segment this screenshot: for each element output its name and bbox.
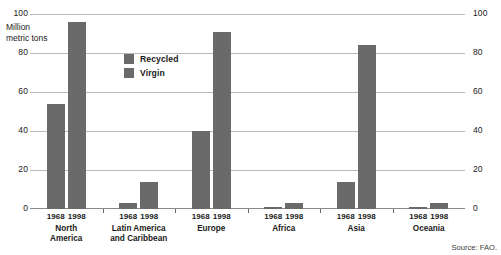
bar-oceania-1968: [409, 207, 427, 209]
y-tick-label-left-20: 20: [0, 165, 28, 174]
gridline-20: [30, 170, 465, 171]
x-tick-label-asia-1998: 1998: [353, 212, 381, 221]
y-tick-label-left-100: 100: [0, 9, 28, 18]
y-tick-label-left-60: 60: [0, 87, 28, 96]
bar-asia-1998: [358, 45, 376, 209]
x-tick-label-north-america-1998: 1998: [63, 212, 91, 221]
group-label-line-1: Oceania: [384, 224, 474, 234]
legend-item-recycled: Recycled: [124, 54, 179, 64]
gridline-100: [30, 14, 465, 15]
y-tick-label-right-80: 80: [473, 48, 501, 57]
bar-europe-1998: [213, 32, 231, 209]
source-note: Source: FAO.: [451, 243, 497, 252]
x-axis-tick-1: [103, 209, 104, 213]
bar-asia-1968: [337, 182, 355, 209]
x-group-label-oceania: Oceania: [384, 224, 474, 234]
legend-label-virgin: Virgin: [140, 68, 165, 78]
y-tick-label-left-40: 40: [0, 126, 28, 135]
y-tick-label-right-100: 100: [473, 9, 501, 18]
y-tick-label-right-20: 20: [473, 165, 501, 174]
x-axis-tick-4: [320, 209, 321, 213]
legend-item-virgin: Virgin: [124, 68, 179, 78]
bar-latin-america-and-caribbean-1968: [119, 203, 137, 209]
legend-label-recycled: Recycled: [140, 54, 179, 64]
x-axis-tick-2: [175, 209, 176, 213]
y-tick-label-right-0: 0: [473, 204, 501, 213]
gridline-80: [30, 53, 465, 54]
bar-europe-1968: [192, 131, 210, 209]
gridline-40: [30, 131, 465, 132]
y-tick-label-right-60: 60: [473, 87, 501, 96]
x-tick-label-europe-1998: 1998: [208, 212, 236, 221]
x-tick-label-oceania-1998: 1998: [425, 212, 453, 221]
bar-latin-america-and-caribbean-1998: [140, 182, 158, 209]
x-axis-tick-3: [248, 209, 249, 213]
x-axis-tick-5: [393, 209, 394, 213]
bar-north-america-1998: [68, 22, 86, 209]
y-tick-label-left-0: 0: [0, 204, 28, 213]
bar-africa-1998: [285, 203, 303, 209]
y-tick-label-left-80: 80: [0, 48, 28, 57]
bar-oceania-1998: [430, 203, 448, 209]
plot-area: [30, 14, 465, 209]
x-tick-label-africa-1998: 1998: [280, 212, 308, 221]
bar-north-america-1968: [47, 104, 65, 209]
chart-root: Million metric tons 10010080806060404020…: [0, 0, 501, 255]
bar-africa-1968: [264, 207, 282, 209]
y-tick-label-right-40: 40: [473, 126, 501, 135]
chart-legend: Recycled Virgin: [124, 54, 179, 82]
x-tick-label-latin-america-and-caribbean-1998: 1998: [135, 212, 163, 221]
group-label-line-2: and Caribbean: [94, 234, 184, 244]
gridline-60: [30, 92, 465, 93]
legend-swatch-recycled: [124, 54, 134, 64]
legend-swatch-virgin: [124, 68, 134, 78]
